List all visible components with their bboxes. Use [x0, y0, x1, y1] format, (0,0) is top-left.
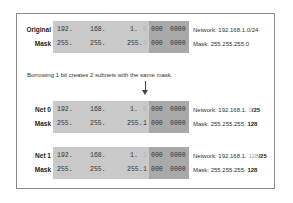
host-bits-b: 0000 — [170, 117, 186, 131]
row-label: Mask — [17, 37, 51, 51]
network-info: Network: 192.168.1. 128/25 — [193, 149, 267, 163]
info-text: Network: 192.168.1.0/24 — [193, 27, 258, 33]
octet-2: 255. — [90, 163, 106, 177]
info-bold: /25 — [258, 153, 266, 159]
subnet-1-block — [53, 147, 189, 179]
host-bits-a: 000 — [151, 163, 163, 177]
row-label: Net 1 — [17, 149, 51, 163]
host-bits-b: 0000 — [170, 149, 186, 163]
subnet-0-block — [53, 101, 189, 133]
octet-3: 1. — [130, 23, 138, 37]
diagram-frame: Original 192. 168. 1. 0 000 0000 Network… — [16, 13, 275, 189]
info-bold: /25 — [252, 107, 260, 113]
octet-1: 255. — [57, 37, 73, 51]
info-text: Mask: 255.255.255.0 — [193, 41, 249, 47]
row-label: Net 0 — [17, 103, 51, 117]
octet-3: 255. — [127, 117, 143, 131]
octet-1: 192. — [57, 23, 73, 37]
host-bits-b: 0000 — [170, 103, 186, 117]
info-text: Mask: 255.255.255. — [193, 167, 247, 173]
caption: Borrowing 1 bit creates 2 subnets with t… — [27, 72, 172, 78]
borrowed-bit: 0 — [143, 23, 147, 37]
down-arrow-icon — [145, 81, 146, 92]
borrowed-bit: 1 — [143, 149, 147, 163]
mask-info: Mask: 255.255.255.0 — [193, 37, 249, 51]
octet-3: 255. — [127, 37, 143, 51]
mask-info: Mask: 255.255.255. 128 — [193, 163, 257, 177]
octet-1: 255. — [57, 163, 73, 177]
octet-1: 192. — [57, 103, 73, 117]
borrowed-bit: 0 — [143, 103, 147, 117]
octet-2: 255. — [90, 117, 106, 131]
octet-3: 1. — [130, 103, 138, 117]
octet-1: 192. — [57, 149, 73, 163]
network-info: Network: 192.168.1. 0/25 — [193, 103, 260, 117]
info-text: Network: 192.168.1. — [193, 153, 248, 159]
row-label: Mask — [17, 163, 51, 177]
octet-2: 255. — [90, 37, 106, 51]
original-block — [53, 21, 189, 53]
octet-2: 168. — [90, 23, 106, 37]
row-label: Original — [17, 23, 51, 37]
octet-2: 168. — [90, 103, 106, 117]
borrowed-bit: 1 — [143, 163, 147, 177]
info-bold: 128 — [247, 167, 257, 173]
octet-1: 255. — [57, 117, 73, 131]
info-dim: 128 — [248, 153, 258, 159]
info-text: Mask: 255.255.255. — [193, 121, 247, 127]
host-bits-a: 000 — [151, 23, 163, 37]
host-bits-b: 0000 — [170, 37, 186, 51]
host-bits-a: 000 — [151, 103, 163, 117]
host-bits-b: 0000 — [170, 163, 186, 177]
info-bold: 128 — [247, 121, 257, 127]
octet-3: 255. — [127, 163, 143, 177]
mask-info: Mask: 255.255.255. 128 — [193, 117, 257, 131]
host-bits-a: 000 — [151, 117, 163, 131]
network-info: Network: 192.168.1.0/24 — [193, 23, 258, 37]
row-label: Mask — [17, 117, 51, 131]
host-bits-b: 0000 — [170, 23, 186, 37]
borrowed-bit: 1 — [143, 117, 147, 131]
host-bits-a: 000 — [151, 149, 163, 163]
host-bits-a: 000 — [151, 37, 163, 51]
octet-3: 1. — [130, 149, 138, 163]
borrowed-bit: 0 — [143, 37, 147, 51]
octet-2: 168. — [90, 149, 106, 163]
info-text: Network: 192.168.1. — [193, 107, 248, 113]
